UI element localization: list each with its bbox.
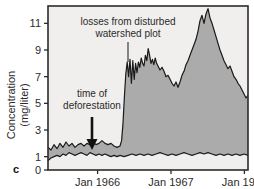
y-tick-label: 3 xyxy=(35,124,41,136)
deforestation-annotation-line2: deforestation xyxy=(63,100,121,111)
y-tick-label: 5 xyxy=(35,97,41,109)
x-tick-label: Jan 1968 xyxy=(222,176,254,188)
losses-annotation-line2: watershed plot xyxy=(94,28,160,39)
y-axis-title-line1: Concentration xyxy=(5,71,17,140)
figure-panel-c: 01357911 Jan 1966Jan 1967Jan 1968 Concen… xyxy=(0,0,254,189)
y-tick-label: 11 xyxy=(30,17,41,29)
y-tick-label: 9 xyxy=(35,44,41,56)
x-tick-label: Jan 1966 xyxy=(75,176,120,188)
y-tick-label: 7 xyxy=(35,71,41,83)
x-tick-label: Jan 1967 xyxy=(148,176,193,188)
y-tick-label: 1 xyxy=(35,151,41,163)
y-axis-title-line2: (mg/liter) xyxy=(18,83,30,126)
deforestation-annotation-line1: time of xyxy=(77,88,107,99)
concentration-area-chart: 01357911 Jan 1966Jan 1967Jan 1968 Concen… xyxy=(0,0,254,189)
y-tick-label: 0 xyxy=(35,164,41,176)
panel-letter: c xyxy=(13,163,19,175)
x-tick-labels: Jan 1966Jan 1967Jan 1968 xyxy=(75,176,254,188)
losses-annotation-line1: losses from disturbed xyxy=(80,16,175,27)
